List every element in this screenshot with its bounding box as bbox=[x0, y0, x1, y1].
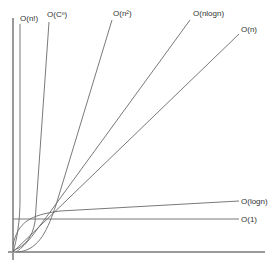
curve-quadratic bbox=[18, 20, 112, 252]
curve-linearithmic bbox=[16, 20, 190, 252]
curve-logarithmic bbox=[13, 201, 239, 245]
complexity-chart: O(n!) O(Cⁿ) O(n²) O(nlogn) O(n) O(logn) … bbox=[0, 0, 275, 269]
label-logarithmic: O(logn) bbox=[241, 197, 268, 206]
label-linearithmic: O(nlogn) bbox=[193, 9, 224, 18]
label-exponential: O(Cⁿ) bbox=[47, 10, 68, 19]
label-constant: O(1) bbox=[241, 215, 257, 224]
curve-factorial bbox=[13, 24, 20, 252]
label-quadratic: O(n²) bbox=[113, 9, 132, 18]
label-factorial: O(n!) bbox=[20, 14, 39, 23]
label-linear: O(n) bbox=[241, 25, 257, 34]
